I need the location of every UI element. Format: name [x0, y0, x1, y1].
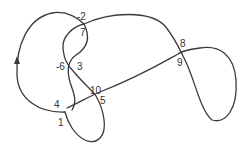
- crossing-label: 9: [177, 57, 183, 68]
- crossing-label: -2: [77, 11, 86, 22]
- crossing-label: 8: [180, 38, 186, 49]
- direction-arrow-icon: [14, 56, 20, 64]
- knot-strand-inner: [63, 24, 104, 142]
- crossing-label: 5: [100, 95, 106, 106]
- knot-diagram: -2 7 -6 3 8 9 4 10 5 1: [0, 0, 247, 150]
- knot-strand-upper: [67, 15, 236, 121]
- crossing-label: 7: [80, 27, 86, 38]
- crossing-label: 3: [77, 61, 83, 72]
- crossing-label: -6: [56, 61, 65, 72]
- crossing-label: 4: [54, 99, 60, 110]
- crossing-label: 1: [58, 117, 64, 128]
